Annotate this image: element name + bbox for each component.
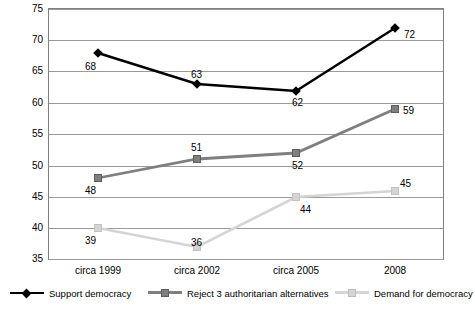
- data-point-marker: [93, 48, 103, 58]
- legend-swatch-reject-3-authoritarian-alternatives: [148, 287, 182, 299]
- legend-item-support-democracy[interactable]: Support democracy: [10, 286, 131, 300]
- series-reject-3-authoritarian-alternatives: [95, 106, 399, 182]
- data-point-marker: [194, 156, 201, 163]
- legend-swatch-demand-for-democracy: [335, 287, 369, 299]
- data-point-marker: [293, 150, 300, 157]
- series-demand-for-democracy: [95, 188, 399, 251]
- series-support-democracy: [93, 23, 400, 96]
- data-point-marker: [95, 175, 102, 182]
- chart-container: 75 70 65 60 55 50 45 40 35 circa 1999 ci…: [0, 0, 475, 312]
- legend-item-reject-3-authoritarian-alternatives[interactable]: Reject 3 authoritarian alternatives: [148, 286, 329, 300]
- data-label-reject-4: 59: [403, 106, 414, 116]
- data-label-demand-1: 39: [85, 236, 96, 246]
- legend-swatch-support-democracy: [10, 287, 44, 299]
- legend-label-reject-3-authoritarian-alternatives: Reject 3 authoritarian alternatives: [187, 288, 329, 299]
- data-label-support-3: 62: [292, 98, 303, 108]
- data-point-marker: [293, 194, 300, 201]
- legend-label-demand-for-democracy: Demand for democracy: [374, 288, 473, 299]
- data-point-marker: [95, 225, 102, 232]
- legend-label-support-democracy: Support democracy: [49, 288, 131, 299]
- data-label-demand-4: 45: [400, 179, 411, 189]
- data-label-support-2: 63: [191, 70, 202, 80]
- data-point-marker: [192, 79, 202, 89]
- data-label-demand-3: 44: [300, 205, 311, 215]
- data-label-reject-2: 51: [191, 143, 202, 153]
- series-layer: [0, 0, 475, 312]
- data-label-support-1: 68: [85, 62, 96, 72]
- chart-legend: Support democracy Reject 3 authoritarian…: [10, 286, 465, 304]
- data-label-support-4: 72: [404, 30, 415, 40]
- data-point-marker: [392, 188, 399, 195]
- legend-item-demand-for-democracy[interactable]: Demand for democracy: [335, 286, 473, 300]
- data-label-demand-2: 36: [191, 238, 202, 248]
- data-label-reject-3: 52: [292, 161, 303, 171]
- data-point-marker: [392, 106, 399, 113]
- data-label-reject-1: 48: [85, 186, 96, 196]
